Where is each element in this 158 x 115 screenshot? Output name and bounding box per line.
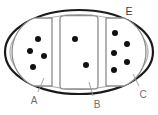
diagram-canvas: E A B C xyxy=(0,0,158,115)
dot xyxy=(35,36,41,42)
dot xyxy=(112,30,118,36)
cross-section-diagram: E A B C xyxy=(0,0,158,115)
label-c: C xyxy=(139,89,146,100)
label-e: E xyxy=(125,5,132,17)
dot xyxy=(72,36,78,42)
label-b: B xyxy=(94,99,101,110)
dot xyxy=(27,48,33,54)
compartment-middle-outline xyxy=(60,16,98,90)
compartment-middle[interactable] xyxy=(60,16,98,90)
dot xyxy=(30,64,36,70)
dot xyxy=(41,53,47,59)
dot xyxy=(111,50,117,56)
dot xyxy=(111,67,117,73)
label-a: A xyxy=(31,95,38,106)
dot xyxy=(124,59,130,65)
dot xyxy=(124,41,130,47)
dot xyxy=(83,62,89,68)
